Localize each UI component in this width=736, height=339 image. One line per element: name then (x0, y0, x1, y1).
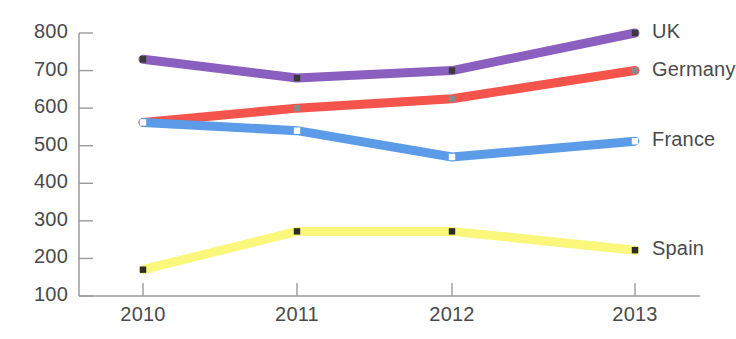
data-point-marker (632, 138, 638, 144)
series-label-spain: Spain (652, 237, 704, 260)
chart-series-group (140, 30, 638, 273)
series-label-uk: UK (652, 20, 680, 43)
series-line-germany (143, 71, 635, 123)
data-point-marker (294, 75, 300, 81)
x-axis-tick-label: 2011 (257, 303, 337, 326)
data-point-marker (294, 105, 300, 111)
data-point-marker (449, 154, 455, 160)
y-axis-tick-label: 600 (8, 95, 68, 118)
data-point-marker (140, 267, 146, 273)
data-point-marker (632, 247, 638, 253)
y-axis-tick-label: 500 (8, 133, 68, 156)
y-axis-tick-label: 300 (8, 208, 68, 231)
series-uk (140, 30, 638, 81)
series-line-spain (143, 231, 635, 269)
series-france (140, 119, 638, 160)
x-axis-tick-label: 2010 (103, 303, 183, 326)
y-axis-tick-label: 100 (8, 283, 68, 306)
x-axis-tick-label: 2012 (412, 303, 492, 326)
data-point-marker (449, 96, 455, 102)
series-label-france: France (652, 128, 715, 151)
data-point-marker (632, 67, 638, 73)
y-axis-tick-label: 200 (8, 245, 68, 268)
data-point-marker (632, 30, 638, 36)
y-axis-tick-label: 400 (8, 170, 68, 193)
data-point-marker (294, 228, 300, 234)
series-line-uk (143, 33, 635, 78)
data-point-marker (449, 67, 455, 73)
series-label-germany: Germany (652, 58, 736, 81)
data-point-marker (140, 56, 146, 62)
y-axis-tick-label: 700 (8, 58, 68, 81)
y-axis-tick-label: 800 (8, 20, 68, 43)
series-spain (140, 228, 638, 273)
x-axis-tick-label: 2013 (595, 303, 675, 326)
data-point-marker (449, 228, 455, 234)
data-point-marker (294, 127, 300, 133)
data-point-marker (140, 119, 146, 125)
series-line-france (143, 122, 635, 157)
